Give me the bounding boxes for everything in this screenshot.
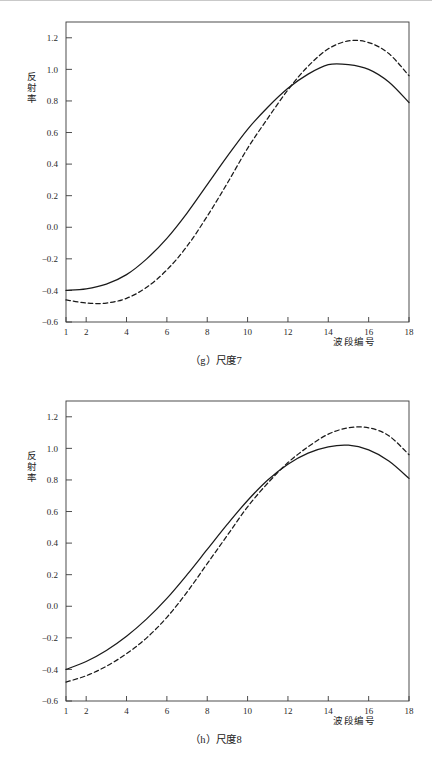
figure-caption-h: （h）尺度8 <box>0 731 432 746</box>
svg-text:8: 8 <box>205 706 210 716</box>
svg-text:−0.2: −0.2 <box>42 633 58 643</box>
svg-text:18: 18 <box>405 327 415 337</box>
svg-text:1.0: 1.0 <box>47 65 59 75</box>
figure-caption-g: （g）尺度7 <box>0 352 432 367</box>
svg-text:−0.4: −0.4 <box>42 286 59 296</box>
svg-text:0.0: 0.0 <box>47 222 59 232</box>
y-axis-title-g: 反射率 <box>24 72 38 105</box>
svg-text:1.0: 1.0 <box>47 444 59 454</box>
svg-text:2: 2 <box>84 327 89 337</box>
figure-g: −0.6−0.4−0.20.00.20.40.60.81.01.21246810… <box>0 0 432 390</box>
line-chart-h: −0.6−0.4−0.20.00.20.40.60.81.01.21246810… <box>0 379 432 724</box>
svg-text:0.2: 0.2 <box>47 191 58 201</box>
svg-text:0.8: 0.8 <box>47 475 59 485</box>
svg-text:0.6: 0.6 <box>47 128 59 138</box>
svg-text:−0.2: −0.2 <box>42 254 58 264</box>
svg-text:0.4: 0.4 <box>47 538 59 548</box>
line-chart-g: −0.6−0.4−0.20.00.20.40.60.81.01.21246810… <box>0 0 432 345</box>
svg-text:12: 12 <box>283 706 292 716</box>
svg-text:8: 8 <box>205 327 210 337</box>
svg-text:4: 4 <box>124 327 129 337</box>
svg-text:0.6: 0.6 <box>47 507 59 517</box>
svg-text:10: 10 <box>243 327 253 337</box>
svg-text:−0.4: −0.4 <box>42 665 59 675</box>
plot-area-g: −0.6−0.4−0.20.00.20.40.60.81.01.21246810… <box>0 0 432 345</box>
y-axis-title-h: 反射率 <box>24 451 38 484</box>
figure-h: −0.6−0.4−0.20.00.20.40.60.81.01.21246810… <box>0 379 432 769</box>
plot-area-h: −0.6−0.4−0.20.00.20.40.60.81.01.21246810… <box>0 379 432 724</box>
svg-text:1: 1 <box>64 327 69 337</box>
svg-text:10: 10 <box>243 706 253 716</box>
svg-text:0.0: 0.0 <box>47 601 59 611</box>
svg-text:1.2: 1.2 <box>47 412 58 422</box>
svg-text:−0.6: −0.6 <box>42 317 59 327</box>
svg-text:0.4: 0.4 <box>47 159 59 169</box>
x-axis-title-g: 波段编号 <box>333 334 375 348</box>
svg-text:4: 4 <box>124 706 129 716</box>
svg-text:14: 14 <box>324 706 334 716</box>
svg-text:−0.6: −0.6 <box>42 696 59 706</box>
svg-text:12: 12 <box>283 327 292 337</box>
svg-text:1: 1 <box>64 706 69 716</box>
svg-text:6: 6 <box>165 706 170 716</box>
svg-text:6: 6 <box>165 327 170 337</box>
svg-text:1.2: 1.2 <box>47 33 58 43</box>
svg-text:0.8: 0.8 <box>47 96 59 106</box>
svg-text:2: 2 <box>84 706 89 716</box>
svg-text:0.2: 0.2 <box>47 570 58 580</box>
svg-text:14: 14 <box>324 327 334 337</box>
x-axis-title-h: 波段编号 <box>333 713 375 727</box>
svg-text:18: 18 <box>405 706 415 716</box>
